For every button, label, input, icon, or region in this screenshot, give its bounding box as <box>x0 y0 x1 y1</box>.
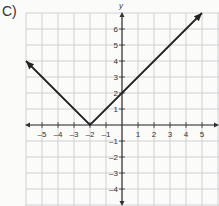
y-axis-label: y <box>118 1 124 10</box>
x-tick-label: 5 <box>200 130 205 139</box>
x-tick-label: –2 <box>86 130 95 139</box>
x-tick-label: 3 <box>168 130 173 139</box>
y-tick-label: 5 <box>114 41 119 50</box>
x-tick-label: 2 <box>152 130 157 139</box>
x-tick-label: –4 <box>54 130 63 139</box>
y-tick-label: 6 <box>114 25 119 34</box>
y-tick-label: 4 <box>114 57 119 66</box>
y-tick-label: 1 <box>114 105 119 114</box>
y-tick-label: –3 <box>109 169 118 178</box>
x-tick-label: –5 <box>38 130 47 139</box>
graph: –5–4–3–2–112345654321–1–2–3–4y <box>0 0 219 206</box>
x-tick-label: 1 <box>136 130 141 139</box>
y-tick-label: –2 <box>109 153 118 162</box>
y-tick-label: –4 <box>109 185 118 194</box>
x-tick-label: 4 <box>184 130 189 139</box>
x-tick-label: –3 <box>70 130 79 139</box>
y-tick-label: 3 <box>114 73 119 82</box>
y-tick-label: –1 <box>109 137 118 146</box>
